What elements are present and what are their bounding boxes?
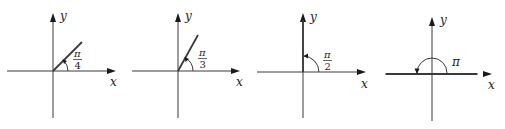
angle-label-pi: π — [451, 55, 461, 69]
x-axis-arrow-icon — [357, 69, 366, 75]
diagram-pi-over-2: y x π 2 — [257, 10, 368, 118]
angle-label-denominator: 4 — [75, 60, 81, 71]
angle-label-numerator: π — [198, 47, 206, 58]
angle-diagrams: y x π 4 y x π 3 y x π 2 — [0, 0, 505, 129]
angle-label-numerator: π — [73, 48, 81, 59]
y-axis-label: y — [59, 9, 67, 23]
angle-label-denominator: 3 — [200, 59, 206, 70]
x-axis-label: x — [361, 77, 368, 91]
angle-label-denominator: 2 — [325, 61, 331, 72]
diagram-pi-over-3: y x π 3 — [132, 9, 243, 118]
y-axis-label: y — [439, 13, 447, 27]
angle-arc-arrow-icon — [185, 57, 190, 62]
y-axis-label: y — [184, 9, 192, 23]
x-axis-arrow-icon — [231, 68, 240, 74]
diagram-pi-over-4: y x π 4 — [7, 9, 117, 118]
x-axis-arrow-icon — [483, 71, 492, 77]
diagram-pi: y x π — [385, 13, 495, 121]
angle-label-numerator: π — [323, 49, 331, 60]
y-axis-arrow-icon — [429, 17, 435, 26]
x-axis-label: x — [488, 78, 495, 92]
y-axis-arrow-icon — [175, 13, 181, 22]
x-axis-arrow-icon — [107, 68, 116, 74]
y-axis-label: y — [309, 10, 317, 24]
angle-arc-arrow-icon — [304, 54, 309, 59]
terminal-ray — [178, 35, 198, 71]
y-axis-arrow-icon — [50, 13, 56, 22]
x-axis-label: x — [236, 75, 243, 89]
angle-arc — [303, 56, 319, 72]
x-axis-label: x — [110, 75, 117, 89]
